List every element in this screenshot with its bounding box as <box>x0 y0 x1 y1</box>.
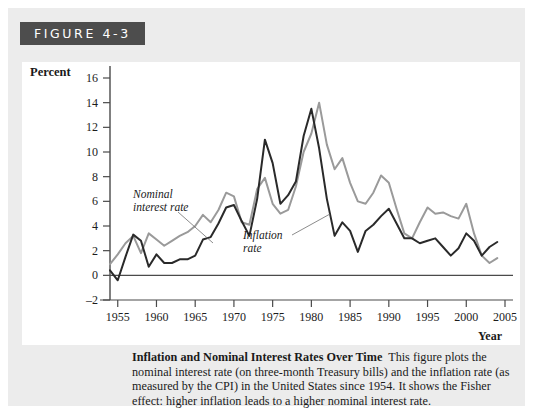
y-tick-label: 6 <box>92 194 98 208</box>
y-tick-label: 12 <box>86 120 98 134</box>
y-tick-label: 2 <box>92 244 98 258</box>
x-tick-label: 1970 <box>222 310 246 324</box>
y-tick-label: 16 <box>86 71 98 85</box>
x-tick-label: 1990 <box>377 310 401 324</box>
annotation-leader-inflation <box>292 214 330 235</box>
x-tick-label: 1975 <box>261 310 285 324</box>
y-tick-label: 10 <box>86 145 98 159</box>
x-tick-label: 1960 <box>144 310 168 324</box>
x-tick-label: 1995 <box>416 310 440 324</box>
y-tick-label: 0 <box>92 268 98 282</box>
annotation-leader-nominal <box>178 212 213 243</box>
y-tick-label: 14 <box>86 96 98 110</box>
figure-caption: Inflation and Nominal Interest Rates Ove… <box>132 350 518 408</box>
x-tick-label: 1985 <box>338 310 362 324</box>
x-tick-label: 2000 <box>454 310 478 324</box>
caption-title: Inflation and Nominal Interest Rates Ove… <box>132 350 382 364</box>
annotation-label-nominal: Nominal <box>132 188 173 200</box>
y-tick-label: –2 <box>85 293 98 307</box>
x-tick-label: 2005 <box>493 310 517 324</box>
annotation-label-nominal: interest rate <box>133 201 188 213</box>
annotation-label-inflation: Inflation <box>242 229 283 242</box>
series-line-nominal <box>110 103 497 265</box>
annotation-label-inflation: rate <box>243 242 262 254</box>
x-tick-label: 1965 <box>183 310 207 324</box>
y-tick-label: 8 <box>92 170 98 184</box>
x-tick-label: 1955 <box>106 310 130 324</box>
x-tick-label: 1980 <box>299 310 323 324</box>
y-tick-label: 4 <box>92 219 98 233</box>
